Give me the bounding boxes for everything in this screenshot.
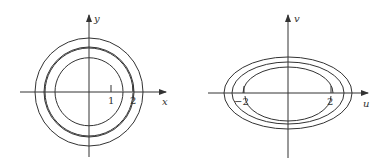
tick-label-pos2: 2 [327, 96, 333, 107]
x-axis-label: x [162, 96, 168, 107]
tick-label-neg2: −2 [234, 96, 249, 107]
y-axis-label: y [93, 13, 100, 24]
xy-plane-figure [20, 15, 166, 157]
diagram-canvas: 1 2 x y −2 2 u v [0, 0, 385, 167]
v-axis-label: v [294, 13, 300, 24]
uv-plane-figure [208, 15, 368, 158]
tick-label-1: 1 [108, 95, 114, 106]
u-axis-label: u [363, 98, 369, 109]
tick-label-2: 2 [130, 95, 136, 106]
